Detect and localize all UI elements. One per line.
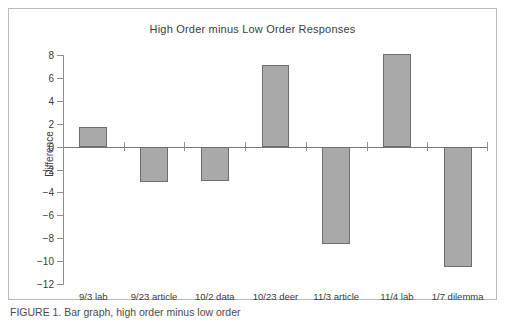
y-tick-label: −4 — [43, 187, 54, 198]
x-tick — [487, 142, 488, 151]
x-tick-label: 9/23 article — [131, 291, 177, 302]
y-tick-label: 4 — [48, 95, 54, 106]
x-tick-label: 10/2 data — [195, 291, 235, 302]
y-tick — [57, 238, 64, 239]
x-tick — [427, 142, 428, 151]
x-tick — [124, 142, 125, 151]
bar — [444, 147, 472, 267]
y-tick-label: 2 — [48, 118, 54, 129]
bar — [201, 147, 229, 181]
x-tick — [367, 142, 368, 151]
x-tick-label: 1/7 dilemma — [432, 291, 484, 302]
y-tick-label: −10 — [37, 256, 54, 267]
y-tick — [57, 215, 64, 216]
x-tick-label: 9/3 lab — [79, 291, 108, 302]
y-tick-label: −2 — [43, 164, 54, 175]
plot-area: 86420−2−4−6−8−10−12 9/3 lab9/23 article1… — [63, 47, 488, 284]
y-tick — [57, 78, 64, 79]
x-tick — [184, 142, 185, 151]
y-tick — [57, 284, 64, 285]
y-tick-label: −8 — [43, 233, 54, 244]
bar — [79, 127, 107, 146]
x-tick-label: 11/3 article — [313, 291, 359, 302]
x-tick-label: 10/23 deer — [253, 291, 298, 302]
x-tick — [306, 142, 307, 151]
y-tick-label: 0 — [48, 141, 54, 152]
y-tick — [57, 261, 64, 262]
x-tick-label: 11/4 lab — [380, 291, 413, 302]
zero-baseline — [63, 147, 488, 148]
y-tick-label: −6 — [43, 210, 54, 221]
y-tick-label: 8 — [48, 50, 54, 61]
bar — [140, 147, 168, 182]
y-tick — [57, 147, 64, 148]
bar — [322, 147, 350, 244]
y-tick-label: 6 — [48, 72, 54, 83]
bar — [262, 65, 290, 146]
y-tick — [57, 101, 64, 102]
y-tick-label: −12 — [37, 279, 54, 290]
bar — [383, 54, 411, 147]
y-tick — [57, 170, 64, 171]
y-tick — [57, 124, 64, 125]
figure-caption: FIGURE 1. Bar graph, high order minus lo… — [10, 306, 241, 322]
y-tick — [57, 192, 64, 193]
x-tick — [245, 142, 246, 151]
y-tick — [57, 55, 64, 56]
figure-panel: High Order minus Low Order Responses Dif… — [8, 8, 497, 300]
chart-title: High Order minus Low Order Responses — [9, 23, 496, 35]
